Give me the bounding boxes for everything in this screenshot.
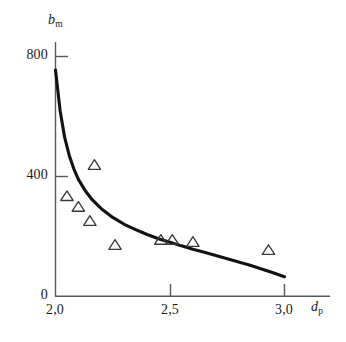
chart-figure: 800 400 0 2,0 2,5 3,0 bm dp — [0, 0, 346, 342]
x-axis-title-base: d — [311, 299, 318, 314]
x-tick-label-3-0: 3,0 — [269, 302, 299, 318]
fitted-curve — [56, 70, 285, 277]
x-axis-title-subscript: p — [318, 306, 323, 316]
y-tick-label-0: 0 — [12, 287, 48, 303]
data-point-marker — [109, 240, 121, 250]
y-tick-label-800: 800 — [12, 47, 48, 63]
data-point-marker — [262, 245, 274, 255]
plot-canvas — [0, 0, 346, 342]
axis-ticks — [56, 57, 285, 297]
y-axis-title-subscript: m — [55, 19, 62, 29]
y-axis-title: bm — [48, 12, 62, 28]
x-tick-label-2-0: 2,0 — [40, 302, 70, 318]
x-tick-label-2-5: 2,5 — [155, 302, 185, 318]
data-point-marker — [88, 160, 100, 170]
data-point-marker — [61, 191, 73, 201]
y-axis-title-base: b — [48, 12, 55, 27]
data-point-marker — [84, 216, 96, 226]
x-axis-title: dp — [311, 299, 323, 315]
data-point-marker — [187, 237, 199, 247]
data-point-marker — [72, 202, 84, 212]
y-tick-label-400: 400 — [12, 167, 48, 183]
